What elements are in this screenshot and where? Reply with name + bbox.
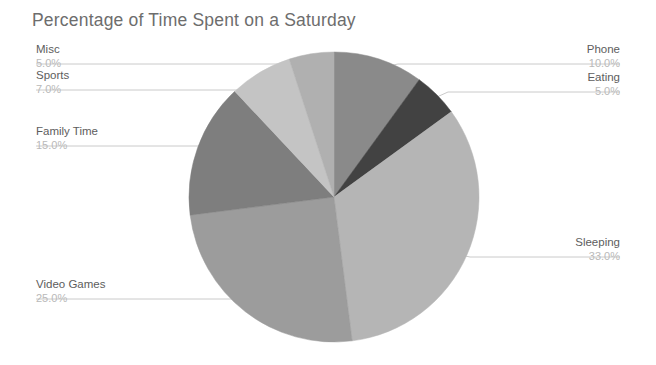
slice-label-sleeping-percent: 33.0% [575,250,620,263]
slice-label-family-time: Family Time 15.0% [36,125,98,152]
slice-label-sleeping: Sleeping 33.0% [575,236,620,263]
slice-label-misc: Misc 5.0% [36,43,61,70]
slice-label-family-time-name: Family Time [36,125,98,138]
slice-label-video-games-percent: 25.0% [36,292,105,305]
slice-label-sports: Sports 7.0% [36,69,69,96]
pie-chart-canvas [0,0,656,365]
slice-label-phone: Phone 10.0% [587,43,620,70]
slice-label-family-time-percent: 15.0% [36,139,98,152]
pie-chart-figure: Percentage of Time Spent on a Saturday M… [0,0,656,365]
slice-label-video-games-name: Video Games [36,278,105,291]
slice-label-misc-name: Misc [36,43,61,56]
pie-slice-video-games [190,197,352,342]
leader-line-phone [374,64,620,69]
pie-slices [189,52,479,342]
slice-label-video-games: Video Games 25.0% [36,278,105,305]
slice-label-eating: Eating 5.0% [587,71,620,98]
slice-label-sports-percent: 7.0% [36,83,69,96]
slice-label-sleeping-name: Sleeping [575,236,620,249]
slice-label-phone-name: Phone [587,43,620,56]
slice-label-phone-percent: 10.0% [587,57,620,70]
slice-label-eating-name: Eating [587,71,620,84]
slice-label-sports-name: Sports [36,69,69,82]
leader-line-misc [36,56,318,64]
slice-label-eating-percent: 5.0% [587,85,620,98]
